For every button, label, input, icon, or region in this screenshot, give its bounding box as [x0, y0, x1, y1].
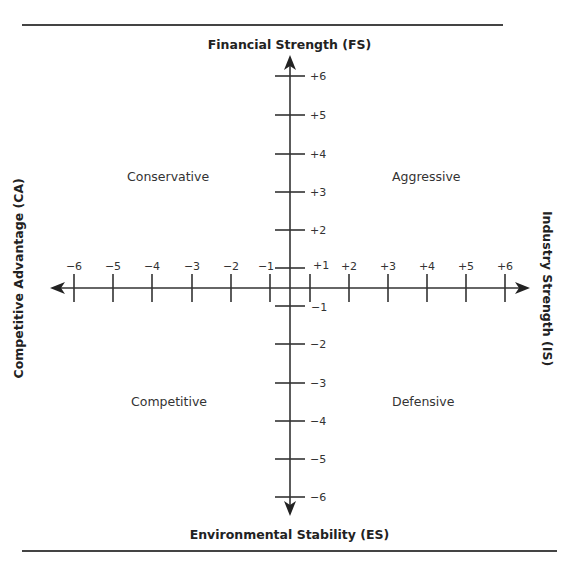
x-tick-label: +2: [341, 260, 357, 273]
x-tick-label: +4: [419, 260, 435, 273]
y-tick-label: +1: [313, 259, 329, 272]
y-tick-label: −2: [310, 338, 326, 351]
y-tick-label: +6: [310, 70, 326, 83]
x-tick-label: −2: [223, 260, 239, 273]
y-tick-label: −3: [310, 377, 326, 390]
x-tick-label: +5: [458, 260, 474, 273]
y-tick-label: +4: [310, 148, 326, 161]
y-tick-label: +3: [310, 186, 326, 199]
y-tick-label: −6: [310, 491, 326, 504]
y-tick-label: +2: [310, 224, 326, 237]
x-tick-label: −5: [105, 260, 121, 273]
y-tick-label: +5: [310, 109, 326, 122]
y-tick-label: −5: [310, 453, 326, 466]
space-matrix-axes: +6 +5 +4 +3 +2 +1 −1 −2 −3 −4 −5 −6 −6 −…: [0, 0, 579, 571]
x-tick-label: −1: [258, 260, 274, 273]
x-tick-label: +6: [497, 260, 513, 273]
y-tick-label: −1: [311, 301, 327, 314]
x-tick-label: +3: [380, 260, 396, 273]
x-tick-label: −3: [184, 260, 200, 273]
y-tick-label: −4: [310, 415, 326, 428]
x-tick-label: −4: [144, 260, 160, 273]
x-tick-label: −6: [66, 260, 82, 273]
